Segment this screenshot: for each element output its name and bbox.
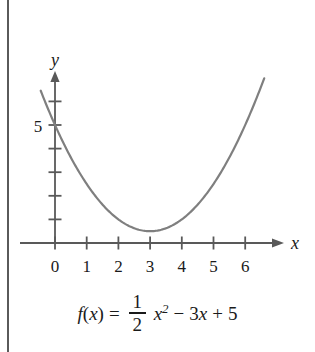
equation-close-paren: )	[98, 304, 104, 323]
equation-equals-sign: =	[109, 304, 120, 323]
x-tick-labels: 0 1 2 3 4 5 6	[51, 257, 250, 276]
x-axis-arrow-icon	[272, 238, 284, 247]
quadratic-variable: x	[154, 303, 162, 324]
y-axis-arrow-icon	[50, 71, 59, 82]
function-equation-caption: f(x) = 1 2 x2 − 3x + 5	[0, 292, 315, 334]
equation-quadratic-term: x2	[154, 304, 169, 323]
equation-row: f(x) = 1 2 x2 − 3x + 5	[78, 292, 238, 334]
y-tick-label-5: 5	[34, 117, 43, 136]
linear-coefficient: 3	[189, 303, 199, 324]
x-tick-label-3: 3	[146, 257, 155, 276]
equation-linear-term: 3x	[189, 304, 207, 323]
x-tick-label-0: 0	[51, 257, 60, 276]
fraction-numerator: 1	[130, 292, 144, 311]
x-tick-label-2: 2	[114, 257, 123, 276]
linear-variable: x	[199, 303, 207, 324]
fraction-denominator: 2	[130, 315, 144, 334]
x-tick-label-6: 6	[241, 257, 250, 276]
equation-plus-sign: +	[212, 304, 223, 323]
x-axis-label: x	[290, 233, 299, 253]
x-tick-label-1: 1	[82, 257, 91, 276]
x-tick-label-5: 5	[209, 257, 218, 276]
parabola-curve	[41, 78, 264, 231]
quadratic-exponent: 2	[162, 300, 168, 315]
equation-fraction-one-half: 1 2	[129, 292, 146, 334]
equation-minus-sign: −	[174, 304, 185, 323]
parabola-graph-figure: 0 1 2 3 4 5 6 5 y x f(x) = 1 2 x2 − 3x +	[0, 0, 315, 352]
equation-argument: x	[89, 304, 97, 323]
x-tick-label-4: 4	[178, 257, 187, 276]
y-axis-label: y	[49, 50, 59, 70]
equation-constant-term: 5	[228, 304, 238, 323]
